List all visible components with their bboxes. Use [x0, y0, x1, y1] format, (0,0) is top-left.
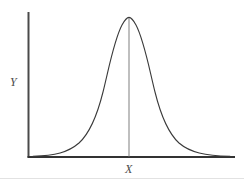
bell-curve-path: [33, 17, 230, 156]
x-axis-label: X: [125, 163, 132, 175]
page-divider-rule: [0, 178, 244, 179]
normal-distribution-figure: Y X: [0, 0, 244, 185]
plot-area: [0, 0, 244, 185]
y-axis-label: Y: [10, 76, 17, 88]
